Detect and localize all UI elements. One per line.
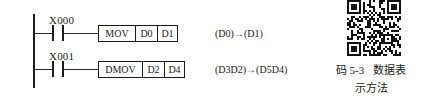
instruction-operand-1: D0 bbox=[136, 26, 158, 41]
instruction-operand-1: D2 bbox=[143, 62, 165, 77]
qr-code-canvas bbox=[347, 0, 401, 56]
qr-caption-line-2: 示方法 bbox=[318, 82, 424, 95]
rung-1-wire-right bbox=[64, 33, 98, 34]
annotation-rung-1: (D0)→(D1) bbox=[215, 29, 263, 39]
instruction-operand-2: D1 bbox=[158, 26, 177, 41]
qr-code-icon[interactable] bbox=[347, 0, 401, 56]
qr-code-block: 码 5-3数据表 示方法 bbox=[318, 0, 424, 104]
rung-2-wire-right bbox=[64, 69, 98, 70]
ladder-diagram-figure: X000 MOV D0 D1 (D0)→(D1) X001 bbox=[0, 0, 424, 104]
instruction-box-mov: MOV D0 D1 bbox=[98, 25, 178, 42]
qr-caption-title: 数据表 bbox=[373, 64, 406, 76]
instruction-mnemonic: MOV bbox=[99, 26, 136, 41]
qr-caption-line-1: 码 5-3数据表 bbox=[318, 64, 424, 77]
annotation-rung-2: (D3D2)→(D5D4) bbox=[215, 65, 287, 75]
qr-caption-number: 码 5-3 bbox=[336, 64, 364, 76]
instruction-operand-2: D4 bbox=[165, 62, 184, 77]
left-power-rail bbox=[33, 14, 35, 88]
rung-1-wire-left bbox=[34, 33, 52, 34]
instruction-box-dmov: DMOV D2 D4 bbox=[98, 61, 185, 78]
instruction-mnemonic: DMOV bbox=[99, 62, 143, 77]
ladder-diagram: X000 MOV D0 D1 (D0)→(D1) X001 bbox=[0, 0, 212, 104]
rung-2-wire-left bbox=[34, 69, 52, 70]
